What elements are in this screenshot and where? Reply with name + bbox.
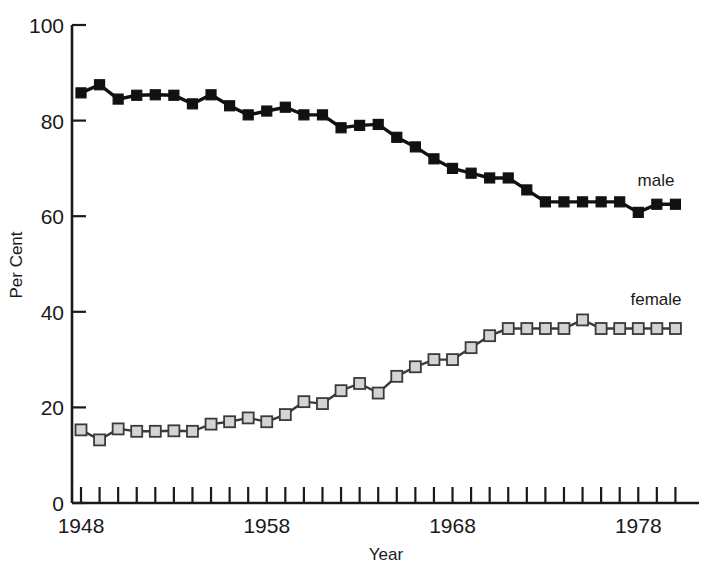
data-point bbox=[243, 110, 253, 120]
data-point bbox=[299, 110, 309, 120]
y-axis-title: Per Cent bbox=[7, 231, 26, 298]
series-inline-labels: malefemale bbox=[630, 171, 681, 309]
data-point bbox=[243, 412, 254, 423]
data-point bbox=[95, 80, 105, 90]
data-point bbox=[596, 197, 606, 207]
series-label-female: female bbox=[630, 290, 681, 309]
data-point bbox=[76, 424, 87, 435]
data-point bbox=[615, 197, 625, 207]
data-point bbox=[578, 197, 588, 207]
data-point bbox=[428, 354, 439, 365]
data-point bbox=[522, 185, 532, 195]
y-tick-label: 60 bbox=[41, 205, 64, 228]
y-tick-label: 20 bbox=[41, 396, 64, 419]
series-male bbox=[76, 80, 680, 218]
data-point bbox=[633, 207, 643, 217]
x-tick-label: 1958 bbox=[243, 514, 290, 537]
series-line-male bbox=[81, 85, 675, 213]
data-point bbox=[466, 342, 477, 353]
series-line-female bbox=[81, 320, 675, 440]
data-point bbox=[392, 132, 402, 142]
data-point bbox=[559, 197, 569, 207]
data-point bbox=[373, 119, 383, 129]
data-point bbox=[76, 88, 86, 98]
data-point bbox=[206, 419, 217, 430]
data-point bbox=[131, 426, 142, 437]
data-point bbox=[596, 323, 607, 334]
series-label-male: male bbox=[638, 171, 675, 190]
data-point bbox=[113, 423, 124, 434]
data-point bbox=[558, 323, 569, 334]
y-tick-label: 80 bbox=[41, 110, 64, 133]
data-point bbox=[261, 416, 272, 427]
data-point bbox=[169, 90, 179, 100]
data-point bbox=[373, 388, 384, 399]
data-point bbox=[280, 102, 290, 112]
y-tick-label: 0 bbox=[52, 492, 64, 515]
chart-container: 020406080100 1948195819681978 malefemale… bbox=[0, 0, 717, 575]
data-point bbox=[150, 90, 160, 100]
data-point bbox=[168, 425, 179, 436]
data-point bbox=[466, 168, 476, 178]
data-point bbox=[317, 398, 328, 409]
data-point bbox=[447, 354, 458, 365]
x-axis-ticks bbox=[81, 487, 675, 503]
data-point bbox=[336, 123, 346, 133]
data-point bbox=[670, 199, 680, 209]
data-point bbox=[355, 120, 365, 130]
x-axis-tick-labels: 1948195819681978 bbox=[58, 514, 662, 537]
data-point bbox=[485, 173, 495, 183]
data-point bbox=[670, 323, 681, 334]
data-point bbox=[113, 94, 123, 104]
data-point bbox=[354, 378, 365, 389]
data-point bbox=[225, 101, 235, 111]
line-chart: 020406080100 1948195819681978 malefemale… bbox=[0, 0, 717, 575]
data-point bbox=[280, 409, 291, 420]
data-point bbox=[652, 199, 662, 209]
series-female bbox=[76, 314, 681, 445]
data-point bbox=[521, 323, 532, 334]
data-point bbox=[317, 110, 327, 120]
data-point bbox=[224, 416, 235, 427]
data-point bbox=[448, 163, 458, 173]
data-point bbox=[206, 90, 216, 100]
data-point bbox=[614, 323, 625, 334]
x-tick-label: 1948 bbox=[58, 514, 105, 537]
x-axis-title: Year bbox=[369, 545, 404, 564]
data-point bbox=[633, 323, 644, 334]
data-point bbox=[410, 142, 420, 152]
data-point bbox=[540, 323, 551, 334]
data-point bbox=[484, 330, 495, 341]
data-point bbox=[262, 106, 272, 116]
data-point bbox=[651, 323, 662, 334]
data-point bbox=[150, 426, 161, 437]
data-point bbox=[577, 314, 588, 325]
data-point bbox=[410, 361, 421, 372]
data-point bbox=[94, 434, 105, 445]
data-point bbox=[540, 197, 550, 207]
x-tick-label: 1968 bbox=[429, 514, 476, 537]
data-point bbox=[336, 385, 347, 396]
data-point bbox=[187, 99, 197, 109]
x-tick-label: 1978 bbox=[615, 514, 662, 537]
data-point bbox=[503, 323, 514, 334]
y-tick-label: 40 bbox=[41, 301, 64, 324]
data-point bbox=[187, 426, 198, 437]
y-axis-tick-labels: 020406080100 bbox=[29, 14, 64, 515]
data-point bbox=[503, 173, 513, 183]
data-point bbox=[132, 90, 142, 100]
y-tick-label: 100 bbox=[29, 14, 64, 37]
data-point bbox=[429, 154, 439, 164]
data-point bbox=[298, 396, 309, 407]
series-layer bbox=[76, 80, 681, 446]
data-point bbox=[391, 371, 402, 382]
